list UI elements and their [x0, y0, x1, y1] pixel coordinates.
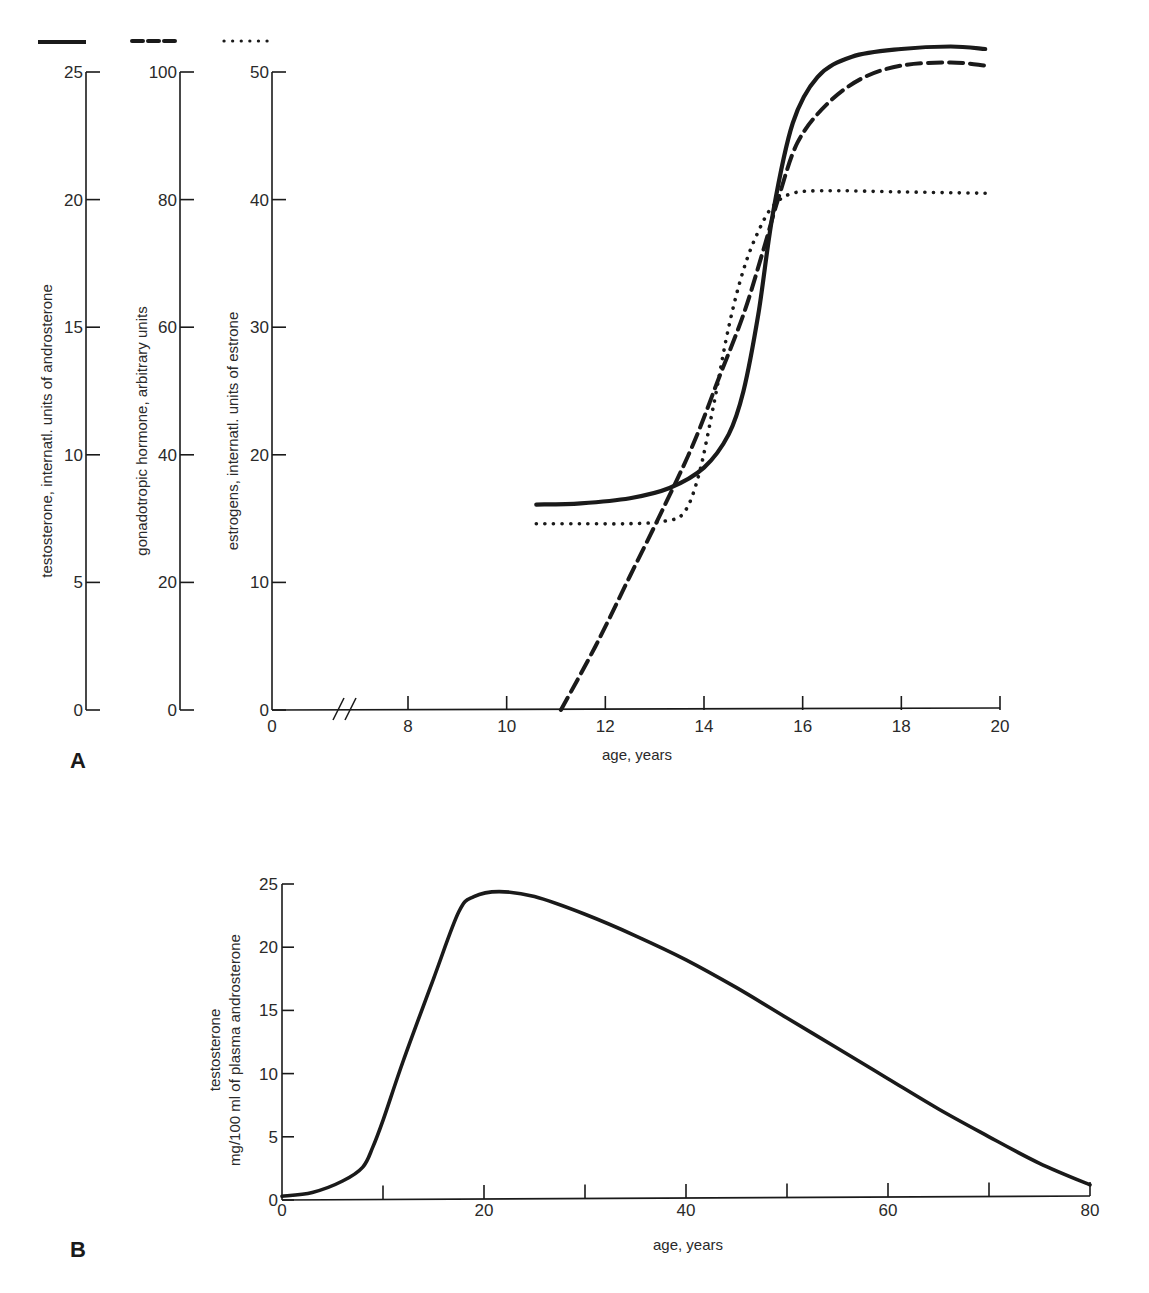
x-tick-label: 80 [1081, 1201, 1100, 1220]
y-tick-label: 5 [269, 1128, 278, 1147]
x-axis-a: 08101214161820 [267, 696, 1009, 736]
x-tick-label: 8 [403, 717, 412, 736]
x-tick-label: 18 [892, 717, 911, 736]
chart-b-ylabel-line2: mg/100 ml of plasma androsterone [226, 934, 243, 1166]
x-tick-label: 0 [277, 1201, 286, 1220]
y-tick-label: 25 [259, 875, 278, 894]
chart-b-xlabel: age, years [653, 1236, 723, 1253]
chart-a-axes: 0510152025testosterone, internatl. units… [38, 63, 1009, 736]
y-tick-label: 15 [64, 318, 83, 337]
series-testosterone-b-line [282, 892, 1090, 1197]
x-tick-label: 60 [879, 1201, 898, 1220]
y-tick-label: 10 [64, 446, 83, 465]
chart-b-axes: 0510152025020406080 [259, 875, 1099, 1220]
y-tick-label: 30 [250, 318, 269, 337]
x-tick-label: 12 [596, 717, 615, 736]
chart-b-ylabel-line1: testosterone [206, 1009, 223, 1092]
x-tick-label: 0 [267, 717, 276, 736]
series-gonadotropic-line [561, 62, 985, 710]
y-tick-label: 20 [158, 573, 177, 592]
y-tick-label: 0 [74, 701, 83, 720]
x-tick-label: 14 [695, 717, 714, 736]
x-tick-label: 20 [475, 1201, 494, 1220]
series-estrogens-line [536, 191, 985, 524]
y-tick-label: 0 [168, 701, 177, 720]
y-tick-label: 20 [259, 938, 278, 957]
y-tick-label: 100 [149, 63, 177, 82]
y-axis-testosterone: 0510152025testosterone, internatl. units… [38, 63, 100, 720]
chart-a-xlabel: age, years [602, 746, 672, 763]
y-tick-label: 10 [250, 573, 269, 592]
chart-a-series [536, 47, 985, 711]
x-tick-label: 20 [991, 717, 1010, 736]
y-tick-label: 50 [250, 63, 269, 82]
x-tick-label: 40 [677, 1201, 696, 1220]
y-tick-label: 80 [158, 191, 177, 210]
y-tick-label: 20 [250, 446, 269, 465]
y-axis-b: 0510152025 [259, 875, 294, 1210]
y-axis-label-gonadotropic: gonadotropic hormone, arbitrary units [133, 306, 150, 555]
y-tick-label: 10 [259, 1065, 278, 1084]
y-tick-label: 15 [259, 1001, 278, 1020]
chart-b-series [282, 892, 1090, 1197]
panel-label-b: B [70, 1237, 86, 1262]
y-tick-label: 5 [74, 573, 83, 592]
y-axis-label-estrogens: estrogens, internatl. units of estrone [224, 312, 241, 550]
y-axis-estrogens: 01020304050estrogens, internatl. units o… [224, 63, 286, 720]
y-axis-label-testosterone: testosterone, internatl. units of andros… [38, 284, 55, 578]
series-testosterone-line [536, 47, 985, 505]
x-tick-label: 16 [793, 717, 812, 736]
y-tick-label: 25 [64, 63, 83, 82]
x-axis-b: 020406080 [277, 1182, 1099, 1220]
legend-a [38, 41, 272, 42]
x-tick-label: 10 [497, 717, 516, 736]
figure: 0510152025testosterone, internatl. units… [0, 0, 1149, 1293]
y-tick-label: 40 [250, 191, 269, 210]
y-tick-label: 20 [64, 191, 83, 210]
y-tick-label: 60 [158, 318, 177, 337]
y-tick-label: 40 [158, 446, 177, 465]
y-axis-gonadotropic: 020406080100gonadotropic hormone, arbitr… [133, 63, 194, 720]
panel-label-a: A [70, 748, 86, 773]
